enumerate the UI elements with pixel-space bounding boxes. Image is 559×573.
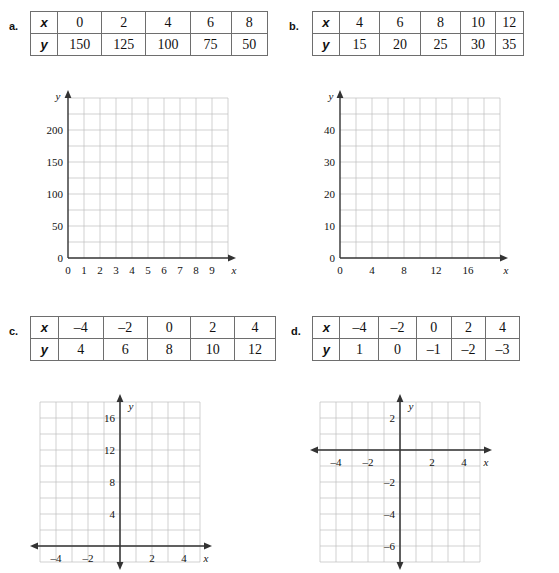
cell-x-0: –4 (340, 317, 379, 339)
x-tick-4-a: 4 (129, 264, 135, 276)
y-tick-4-b: 40 (324, 124, 336, 136)
cell-y-4: 12 (235, 339, 276, 361)
graph-d: y x –4 –2 2 4 2 –2 –4 –6 (310, 392, 520, 572)
x-tick-9-a: 9 (209, 264, 215, 276)
x-tick-3-a: 3 (113, 264, 119, 276)
y-axis-arrow-up-c (117, 394, 124, 402)
graph-a: y x 0 50 100 150 200 0 1 2 3 4 5 6 7 8 9 (18, 88, 238, 278)
cell-y-3: 75 (190, 34, 231, 56)
y-axis-arrow-up-d (397, 394, 404, 402)
x-axis-arrow-a (228, 255, 236, 262)
table-row: x 4 6 8 10 12 (313, 12, 524, 34)
x-tick-neg2-c: –2 (82, 552, 94, 564)
y-tick-4-a: 200 (47, 124, 64, 136)
grid-lines-b (340, 98, 500, 258)
cell-y-3: –2 (452, 339, 486, 361)
cell-x-2: 0 (148, 317, 191, 339)
y-tick-neg2-d: –2 (383, 476, 395, 488)
cell-y-2: 25 (420, 34, 461, 56)
cell-y-4: 50 (231, 34, 267, 56)
x-tick-neg4-d: –4 (330, 456, 343, 468)
cell-y-1: 125 (102, 34, 146, 56)
cell-x-0: –4 (58, 317, 103, 339)
x-tick-2-b: 8 (401, 264, 407, 276)
cell-y-4: –3 (486, 339, 520, 361)
x-tick-1-b: 4 (369, 264, 375, 276)
y-tick-0-a: 0 (58, 252, 64, 264)
graph-b: y x 0 10 20 30 40 0 4 8 12 16 (298, 88, 518, 278)
x-tick-7-a: 7 (177, 264, 183, 276)
y-axis-label-b: y (328, 90, 334, 102)
y-tick-16-c: 16 (104, 412, 116, 424)
cell-y-3: 10 (191, 339, 235, 361)
grid-lines-a (68, 98, 228, 258)
table-row: y 4 6 8 10 12 (31, 339, 276, 361)
cell-x-4: 4 (486, 317, 520, 339)
x-axis-arrow-left-d (310, 447, 318, 454)
data-table-b: x 4 6 8 10 12 y 15 20 25 30 35 (312, 11, 524, 56)
axis-lines-a (68, 96, 230, 258)
x-axis-label-b: x (503, 264, 509, 276)
table-row: y 1 0 –1 –2 –3 (313, 339, 520, 361)
x-axis-arrow-right-c (204, 543, 212, 550)
cell-x-2: 8 (420, 12, 461, 34)
problem-letter-a: a. (9, 20, 18, 32)
x-tick-8-a: 8 (193, 264, 199, 276)
x-tick-2-d: 2 (429, 456, 435, 468)
graph-c: y x –4 –2 2 4 4 8 12 16 (30, 392, 240, 572)
y-tick-3-b: 30 (324, 156, 336, 168)
x-tick-1-a: 1 (81, 264, 87, 276)
y-tick-3-a: 150 (47, 156, 64, 168)
x-tick-4-b: 16 (463, 264, 475, 276)
cell-x-0: 0 (58, 12, 102, 34)
cell-x-4: 8 (231, 12, 267, 34)
cell-x-3: 10 (461, 12, 495, 34)
y-tick-2-b: 20 (324, 188, 336, 200)
y-tick-12-c: 12 (104, 444, 115, 456)
y-tick-0-b: 0 (330, 252, 336, 264)
table-row: x 0 2 4 6 8 (31, 12, 268, 34)
cell-y-1: 20 (380, 34, 421, 56)
problem-letter-c: c. (9, 325, 18, 337)
cell-y-2: –1 (416, 339, 452, 361)
x-tick-neg4-c: –4 (50, 552, 63, 564)
cell-x-4: 12 (495, 12, 523, 34)
y-axis-arrow-down-d (397, 562, 404, 570)
y-axis-label-c: y (128, 400, 134, 412)
y-axis-arrow-a (65, 90, 72, 98)
cell-x-1: 2 (102, 12, 146, 34)
y-tick-1-b: 10 (324, 220, 336, 232)
x-tick-0-a: 0 (65, 264, 71, 276)
data-table-a: x 0 2 4 6 8 y 150 125 100 75 50 (30, 11, 268, 56)
y-axis-arrow-b (337, 90, 344, 98)
table-header-x: x (31, 317, 59, 339)
y-axis-arrow-down-c (117, 562, 124, 570)
x-axis-label-c: x (203, 552, 209, 564)
x-axis-arrow-left-c (30, 543, 38, 550)
cell-x-3: 2 (191, 317, 235, 339)
x-axis-label-d: x (483, 456, 489, 468)
cell-x-0: 4 (339, 12, 380, 34)
cell-y-1: 0 (379, 339, 416, 361)
cell-x-1: 6 (380, 12, 421, 34)
table-row: y 150 125 100 75 50 (31, 34, 268, 56)
y-tick-1-a: 50 (52, 220, 64, 232)
y-tick-neg4-d: –4 (383, 508, 396, 520)
x-tick-2-a: 2 (97, 264, 103, 276)
cell-x-2: 4 (146, 12, 190, 34)
x-axis-arrow-right-d (484, 447, 492, 454)
cell-y-0: 4 (58, 339, 103, 361)
y-tick-2-a: 100 (47, 188, 64, 200)
cell-x-2: 0 (416, 317, 452, 339)
cell-x-1: –2 (379, 317, 416, 339)
x-axis-arrow-b (500, 255, 508, 262)
y-tick-2-d: 2 (390, 412, 396, 424)
x-tick-neg2-d: –2 (362, 456, 374, 468)
x-tick-4-d: 4 (461, 456, 467, 468)
cell-x-4: 4 (235, 317, 276, 339)
table-row: x –4 –2 0 2 4 (313, 317, 520, 339)
cell-y-1: 6 (103, 339, 148, 361)
table-row: y 15 20 25 30 35 (313, 34, 524, 56)
x-tick-2-c: 2 (149, 552, 155, 564)
x-axis-label-a: x (231, 264, 237, 276)
